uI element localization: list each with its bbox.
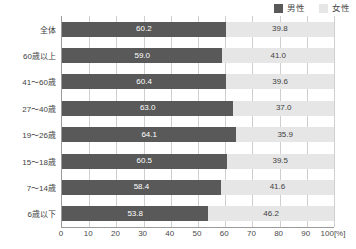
bar-value-label-male: 60.5 (136, 157, 152, 165)
bar-track: 63.037.0 (62, 101, 334, 116)
plot-wrapper: 全体60歳以上41～60歳27～40歳19～26歳15～18歳7～14歳6歳以下… (0, 16, 356, 249)
bar-segment-male: 63.0 (62, 101, 233, 116)
bar-segment-male: 59.0 (62, 48, 222, 63)
bar-value-label-male: 58.4 (134, 183, 150, 191)
bar-value-label-male: 60.4 (136, 78, 152, 86)
bar-value-label-female: 39.6 (272, 78, 288, 86)
bar-row: 53.846.2 (62, 201, 334, 227)
bar-row: 60.439.6 (62, 69, 334, 95)
bar-segment-female: 39.5 (227, 154, 334, 169)
bar-row: 64.135.9 (62, 122, 334, 148)
gridline (334, 16, 335, 227)
bar-segment-male: 60.5 (62, 154, 227, 169)
bar-segment-female: 39.8 (226, 22, 334, 37)
bar-segment-male: 60.2 (62, 22, 226, 37)
bar-row: 60.539.5 (62, 148, 334, 174)
bar-segment-female: 41.6 (221, 180, 334, 195)
chart-legend: 男性 女性 (274, 2, 350, 14)
bar-row: 59.041.0 (62, 42, 334, 68)
bar-row: 60.239.8 (62, 16, 334, 42)
value-axis-tick-label: 50 (193, 229, 202, 238)
bar-segment-male: 60.4 (62, 74, 226, 89)
category-axis-label: 27～40歳 (0, 95, 61, 121)
bar-value-label-male: 63.0 (140, 104, 156, 112)
legend-label-male: 男性 (287, 4, 305, 13)
bar-track: 59.041.0 (62, 48, 334, 63)
bar-series-container: 60.239.859.041.060.439.663.037.064.135.9… (62, 16, 334, 227)
bar-value-label-male: 64.1 (141, 131, 157, 139)
value-axis-tick-label: 10 (84, 229, 93, 238)
legend-swatch-icon-female (319, 4, 328, 13)
bar-value-label-female: 39.5 (272, 157, 288, 165)
bar-value-label-female: 41.0 (270, 52, 286, 60)
bar-value-label-male: 60.2 (136, 25, 152, 33)
value-axis-tick-label: 70 (247, 229, 256, 238)
bar-segment-female: 46.2 (208, 206, 334, 221)
value-axis-tick-label: 100[%] (321, 229, 346, 238)
legend-label-female: 女性 (332, 4, 350, 13)
bar-segment-female: 41.0 (222, 48, 334, 63)
bar-value-label-male: 59.0 (134, 52, 150, 60)
bar-track: 60.439.6 (62, 74, 334, 89)
bar-segment-male: 53.8 (62, 206, 208, 221)
bar-track: 60.539.5 (62, 154, 334, 169)
legend-entry-male: 男性 (274, 4, 305, 13)
bar-row: 63.037.0 (62, 95, 334, 121)
bar-value-label-female: 35.9 (277, 131, 293, 139)
bar-track: 64.135.9 (62, 127, 334, 142)
value-axis: 0102030405060708090100[%] (61, 229, 333, 243)
bar-track: 58.441.6 (62, 180, 334, 195)
value-axis-tick-label: 30 (138, 229, 147, 238)
bar-value-label-female: 46.2 (263, 210, 279, 218)
category-axis-label: 6歳以下 (0, 201, 61, 227)
legend-swatch-icon-male (274, 4, 283, 13)
value-axis-tick-label: 40 (165, 229, 174, 238)
bar-segment-female: 35.9 (236, 127, 334, 142)
stacked-bar-chart: 男性 女性 全体60歳以上41～60歳27～40歳19～26歳15～18歳7～1… (0, 0, 356, 249)
category-axis-label: 全体 (0, 16, 61, 42)
plot-area: 60.239.859.041.060.439.663.037.064.135.9… (61, 16, 334, 228)
bar-segment-female: 37.0 (233, 101, 334, 116)
category-axis: 全体60歳以上41～60歳27～40歳19～26歳15～18歳7～14歳6歳以下 (0, 16, 61, 227)
category-axis-label: 7～14歳 (0, 174, 61, 200)
bar-segment-female: 39.6 (226, 74, 334, 89)
legend-entry-female: 女性 (319, 4, 350, 13)
bar-value-label-female: 37.0 (276, 104, 292, 112)
category-axis-label: 41～60歳 (0, 69, 61, 95)
category-axis-label: 15～18歳 (0, 148, 61, 174)
bar-track: 60.239.8 (62, 22, 334, 37)
value-axis-tick-label: 80 (274, 229, 283, 238)
category-axis-label: 60歳以上 (0, 42, 61, 68)
value-axis-tick-label: 90 (301, 229, 310, 238)
category-axis-label: 19～26歳 (0, 122, 61, 148)
bar-segment-male: 58.4 (62, 180, 221, 195)
bar-row: 58.441.6 (62, 174, 334, 200)
bar-value-label-female: 41.6 (270, 183, 286, 191)
value-axis-tick-label: 60 (220, 229, 229, 238)
bar-value-label-female: 39.8 (272, 25, 288, 33)
bar-value-label-male: 53.8 (127, 210, 143, 218)
value-axis-tick-label: 20 (111, 229, 120, 238)
bar-segment-male: 64.1 (62, 127, 236, 142)
bar-track: 53.846.2 (62, 206, 334, 221)
value-axis-tick-label: 0 (59, 229, 63, 238)
